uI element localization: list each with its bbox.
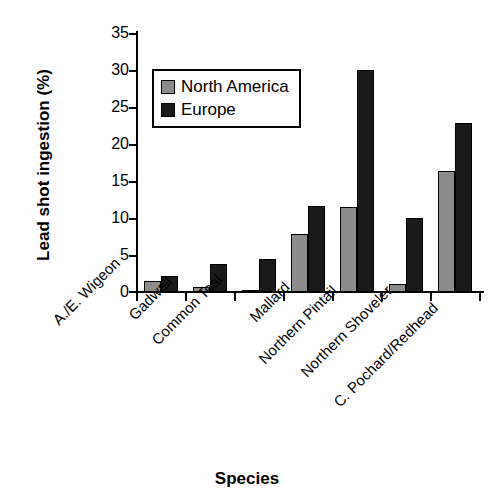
x-axis-tick — [234, 292, 236, 301]
y-tick-label: 35 — [99, 25, 129, 41]
legend-item-north-america: North America — [161, 75, 289, 98]
x-category-label: C. Pochard/Redhead — [330, 299, 441, 410]
y-axis-title: Lead shot ingestion (%) — [34, 25, 54, 305]
bar-north-america — [438, 171, 455, 292]
legend: North America Europe — [152, 69, 301, 128]
bar-europe — [406, 218, 423, 292]
bar-group — [333, 33, 382, 292]
black-square-icon — [161, 103, 175, 117]
y-tick-label: 25 — [99, 99, 129, 115]
x-axis-tick — [479, 292, 481, 301]
bar-europe — [308, 206, 325, 292]
legend-label: Europe — [181, 101, 236, 118]
y-tick-label: 30 — [99, 62, 129, 78]
bar-chart-figure: Lead shot ingestion (%) 35 30 25 20 15 1… — [0, 0, 494, 503]
bar-europe — [455, 123, 472, 292]
y-axis-tick-labels: 35 30 25 20 15 10 5 0 — [93, 0, 129, 503]
y-tick-label: 20 — [99, 136, 129, 152]
bar-north-america — [242, 290, 259, 292]
bar-group — [382, 33, 431, 292]
x-axis-title: Species — [0, 469, 494, 489]
y-tick-label: 0 — [99, 284, 129, 300]
y-tick-label: 10 — [99, 210, 129, 226]
y-tick-label: 15 — [99, 173, 129, 189]
bar-group — [431, 33, 480, 292]
gray-square-icon — [161, 80, 175, 94]
bar-north-america — [340, 207, 357, 292]
legend-label: North America — [181, 78, 289, 95]
legend-item-europe: Europe — [161, 98, 289, 121]
bar-europe — [357, 70, 374, 292]
bar-north-america — [291, 234, 308, 292]
